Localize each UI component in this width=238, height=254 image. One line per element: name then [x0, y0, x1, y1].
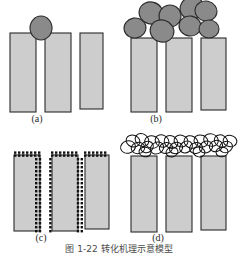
panel-a-pillars — [10, 33, 103, 112]
surface-dot — [81, 210, 83, 212]
surface-dot — [35, 218, 37, 220]
surface-dot — [26, 151, 28, 153]
surface-dot — [84, 151, 86, 153]
surface-dot — [49, 174, 51, 176]
pillar — [201, 38, 226, 110]
pillar — [131, 156, 157, 232]
surface-dot — [77, 174, 79, 176]
surface-dot — [77, 218, 79, 220]
surface-dot — [39, 186, 41, 188]
panel-d — [119, 131, 238, 232]
surface-dot — [35, 190, 37, 192]
surface-dot — [51, 154, 53, 156]
surface-dot — [39, 162, 41, 164]
surface-dot — [71, 154, 73, 156]
surface-dot — [81, 158, 83, 160]
surface-dot — [81, 162, 83, 164]
surface-dot — [18, 154, 20, 156]
surface-dot — [35, 202, 37, 204]
surface-dot — [77, 170, 79, 172]
surface-dot — [49, 162, 51, 164]
surface-dot — [35, 170, 37, 172]
pillar — [45, 33, 71, 112]
surface-dot — [88, 154, 90, 156]
surface-dot — [100, 151, 102, 153]
surface-dot — [22, 151, 24, 153]
surface-dot — [49, 214, 51, 216]
surface-dot — [77, 206, 79, 208]
surface-dot — [81, 230, 83, 232]
surface-dot — [104, 151, 106, 153]
surface-dot — [92, 154, 94, 156]
panel-label-d: (d) — [138, 233, 178, 243]
surface-dot — [96, 151, 98, 153]
surface-dot — [49, 202, 51, 204]
surface-dot — [77, 194, 79, 196]
surface-dot — [30, 151, 32, 153]
pillar — [201, 156, 226, 230]
surface-dot — [39, 182, 41, 184]
surface-dot — [81, 166, 83, 168]
surface-dot — [75, 154, 77, 156]
surface-dot — [59, 151, 61, 153]
surface-dot — [34, 151, 36, 153]
pillar — [10, 33, 36, 112]
surface-dot — [104, 154, 106, 156]
surface-dot — [39, 218, 41, 220]
surface-dot — [35, 194, 37, 196]
surface-dot — [35, 198, 37, 200]
surface-dot — [71, 151, 73, 153]
surface-dot — [67, 151, 69, 153]
pillar — [131, 38, 157, 112]
surface-dot — [39, 158, 41, 160]
surface-dot — [39, 174, 41, 176]
surface-dot — [81, 182, 83, 184]
panel-b-pillars — [131, 38, 226, 112]
surface-dot — [81, 206, 83, 208]
surface-dot — [77, 202, 79, 204]
filled-particle — [199, 20, 219, 38]
pillar — [85, 155, 109, 229]
surface-dot — [81, 214, 83, 216]
surface-dot — [81, 186, 83, 188]
surface-dot — [35, 210, 37, 212]
surface-dot — [77, 158, 79, 160]
surface-dot — [81, 222, 83, 224]
surface-dot — [55, 151, 57, 153]
surface-dot — [18, 151, 20, 153]
surface-dot — [77, 214, 79, 216]
surface-dot — [77, 186, 79, 188]
panel-a-particles — [30, 16, 52, 40]
surface-dot — [75, 151, 77, 153]
surface-dot — [77, 222, 79, 224]
surface-dot — [39, 210, 41, 212]
panel-b — [122, 0, 226, 112]
surface-dot — [35, 174, 37, 176]
surface-dot — [67, 154, 69, 156]
surface-dot — [49, 194, 51, 196]
surface-dot — [49, 182, 51, 184]
surface-dot — [81, 170, 83, 172]
panel-d-open-circles — [119, 131, 238, 158]
surface-dot — [49, 158, 51, 160]
surface-dot — [55, 154, 57, 156]
figure-caption: 图 1-22 转化机理示意模型 — [0, 244, 238, 254]
panel-label-c: (c) — [21, 233, 61, 243]
surface-dot — [35, 222, 37, 224]
surface-dot — [51, 151, 53, 153]
surface-dot — [35, 226, 37, 228]
pillar — [52, 155, 78, 231]
surface-dot — [34, 154, 36, 156]
surface-dot — [35, 206, 37, 208]
panel-a — [10, 16, 103, 112]
pillar — [166, 156, 192, 232]
pillar — [166, 38, 192, 112]
surface-dot — [77, 210, 79, 212]
surface-dot — [35, 162, 37, 164]
surface-dot — [39, 226, 41, 228]
surface-dot — [81, 190, 83, 192]
surface-dot — [38, 151, 40, 153]
surface-dot — [49, 170, 51, 172]
surface-dot — [49, 210, 51, 212]
surface-dot — [49, 218, 51, 220]
